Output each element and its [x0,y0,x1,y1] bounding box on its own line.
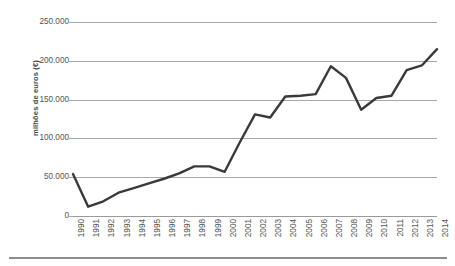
series-line-chart [73,22,437,216]
x-tick-label: 1995 [153,219,163,253]
x-tick-label: 1998 [198,219,208,253]
x-tick-label: 2000 [229,219,239,253]
x-tick-label: 2009 [365,219,375,253]
x-tick-label: 2006 [320,219,330,253]
x-tick-label: 2013 [426,219,436,253]
x-tick-label: 1993 [123,219,133,253]
x-tick-label: 1994 [138,219,148,253]
x-tick-label: 2012 [411,219,421,253]
y-tick-mark [69,138,73,139]
y-tick-label: 50.000 [9,173,69,181]
y-tick-mark [69,216,73,217]
x-tick-label: 2002 [259,219,269,253]
y-tick-mark [69,22,73,23]
line-chart: milhões de euros (€) 1990199119921993199… [0,0,455,266]
y-tick-mark [69,61,73,62]
x-tick-label: 1997 [183,219,193,253]
x-tick-label: 2011 [396,219,406,253]
x-axis-labels: 1990199119921993199419951996199719981999… [73,219,437,255]
x-tick-label: 2007 [335,219,345,253]
x-tick-label: 1990 [77,219,87,253]
series-line-path [73,49,437,207]
x-tick-label: 2008 [350,219,360,253]
y-tick-label: 0 [9,212,69,220]
y-tick-label: 250.000 [9,18,69,26]
x-tick-label: 2014 [441,219,451,253]
x-tick-label: 2001 [244,219,254,253]
y-tick-label: 200.000 [9,57,69,65]
x-tick-label: 1996 [168,219,178,253]
y-tick-label: 100.000 [9,134,69,142]
x-tick-label: 2010 [380,219,390,253]
y-tick-mark [69,177,73,178]
y-tick-mark [69,100,73,101]
x-tick-label: 2005 [305,219,315,253]
x-tick-label: 1999 [214,219,224,253]
x-tick-label: 2004 [289,219,299,253]
bottom-divider-rule [9,257,447,259]
x-tick-label: 1991 [92,219,102,253]
x-tick-label: 2003 [274,219,284,253]
x-tick-label: 1992 [107,219,117,253]
y-tick-label: 150.000 [9,96,69,104]
gridline [73,216,437,217]
